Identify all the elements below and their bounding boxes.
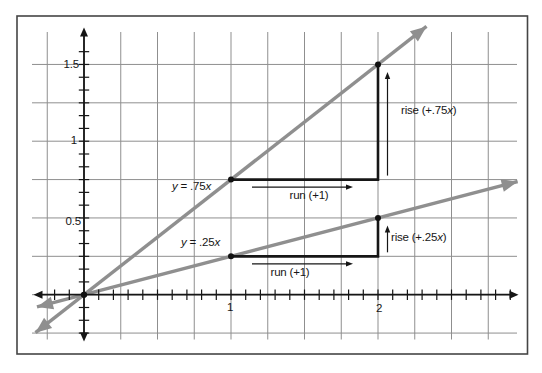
rise-label-lower: rise (+.25x) [391, 232, 446, 244]
run-label-upper: run (+1) [290, 190, 329, 202]
rise-label-upper: rise (+.75x) [401, 105, 456, 117]
y-axis-label-0-5: 0.5 [66, 216, 81, 228]
plot-canvas [0, 0, 542, 373]
equation-label-y025: y = .25x [181, 237, 220, 249]
data-point [228, 253, 234, 259]
equation-label-y075: y = .75x [172, 181, 211, 193]
y-axis-label-1-5: 1.5 [64, 59, 79, 71]
data-point [375, 61, 381, 67]
figure-border [17, 16, 528, 354]
data-point [375, 215, 381, 221]
y-axis-label-1: 1 [71, 135, 77, 147]
x-axis-label-2: 2 [376, 303, 382, 315]
data-point [228, 177, 234, 183]
run-label-lower: run (+1) [271, 267, 310, 279]
data-point [81, 292, 87, 298]
x-axis-label-1: 1 [227, 302, 233, 314]
graph-figure: 1.5 1 0.5 1 2 y = .75x y = .25x run (+1)… [0, 0, 542, 373]
